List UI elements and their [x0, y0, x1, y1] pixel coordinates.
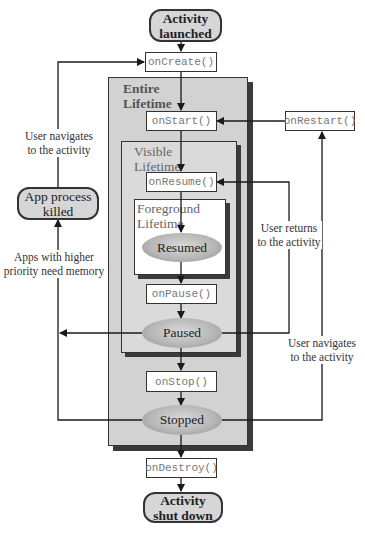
note-user-navigates-left: User navigates to the activity [18, 129, 100, 157]
ondestroy-method: onDestroy() [146, 458, 217, 478]
resumed-state: Resumed [142, 233, 222, 262]
onresume-method: onResume() [146, 172, 217, 192]
activity-shutdown-node: Activity shut down [143, 492, 223, 523]
note-user-returns: User returns to the activity [256, 221, 322, 249]
stopped-state: Stopped [142, 405, 222, 435]
onrestart-method: onRestart() [285, 111, 355, 131]
app-process-killed-node: App process killed [17, 187, 99, 220]
onpause-method: onPause() [146, 284, 217, 304]
onstop-method: onStop() [146, 371, 217, 392]
onstart-method: onStart() [146, 111, 217, 131]
activity-launched-node: Activity launched [149, 9, 222, 42]
oncreate-method: onCreate() [145, 52, 217, 72]
paused-state: Paused [142, 318, 222, 348]
note-apps-higher-priority: Apps with higher priority need memory [2, 250, 106, 278]
note-user-navigates-right: User navigates to the activity [282, 336, 362, 364]
